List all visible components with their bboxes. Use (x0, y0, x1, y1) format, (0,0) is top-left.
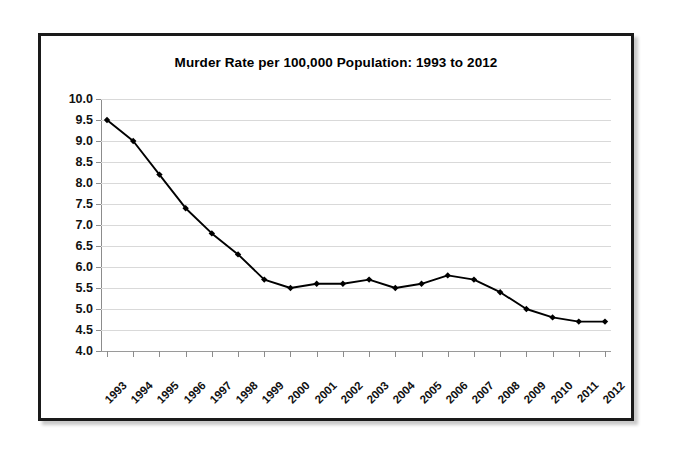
x-axis-tick (500, 351, 501, 357)
plot-area: 10.09.59.08.58.07.57.06.56.05.55.04.54.0… (101, 99, 611, 351)
x-axis-label: 2004 (391, 379, 418, 406)
data-point-marker (313, 281, 319, 287)
x-axis-label: 1999 (260, 379, 287, 406)
x-axis-label: 2000 (286, 379, 313, 406)
x-axis-label: 1997 (207, 379, 234, 406)
x-axis-label: 1993 (102, 379, 129, 406)
x-axis-label: 2011 (574, 379, 600, 405)
y-axis-label: 8.0 (76, 176, 93, 190)
x-axis-tick (264, 351, 265, 357)
x-axis-label: 1995 (155, 379, 182, 406)
x-axis-tick (553, 351, 554, 357)
x-axis-label: 2001 (312, 379, 339, 406)
x-axis-tick (290, 351, 291, 357)
x-axis-label: 2010 (548, 379, 575, 406)
x-axis-tick (579, 351, 580, 357)
data-point-marker (576, 318, 582, 324)
y-axis-label: 5.0 (76, 302, 93, 316)
x-axis-tick (422, 351, 423, 357)
series-polyline (107, 120, 605, 322)
x-axis-tick (133, 351, 134, 357)
data-point-marker (340, 281, 346, 287)
data-point-marker (445, 272, 451, 278)
y-axis-label: 7.5 (76, 197, 93, 211)
x-axis-label: 2003 (364, 379, 391, 406)
x-axis-label: 2012 (600, 379, 627, 406)
y-axis-label: 8.5 (76, 155, 93, 169)
x-axis-label: 1994 (129, 379, 156, 406)
y-axis-label: 4.5 (76, 323, 93, 337)
x-axis-tick (395, 351, 396, 357)
y-axis-label: 5.5 (76, 281, 93, 295)
y-axis-label: 6.0 (76, 260, 93, 274)
x-axis-label: 1996 (181, 379, 208, 406)
y-axis-label: 9.0 (76, 134, 93, 148)
chart-frame: Murder Rate per 100,000 Population: 1993… (38, 33, 634, 421)
chart-title: Murder Rate per 100,000 Population: 1993… (41, 55, 631, 70)
x-axis-tick (474, 351, 475, 357)
x-axis-label: 2009 (522, 379, 549, 406)
x-axis-tick (159, 351, 160, 357)
y-axis-label: 4.0 (76, 344, 93, 358)
x-axis-tick (448, 351, 449, 357)
x-axis-tick (605, 351, 606, 357)
y-axis-tick (96, 351, 101, 352)
x-axis-label: 2008 (496, 379, 523, 406)
x-axis-tick (317, 351, 318, 357)
y-axis-label: 7.0 (76, 218, 93, 232)
x-axis-tick (212, 351, 213, 357)
y-axis-label: 6.5 (76, 239, 93, 253)
x-axis-label: 2005 (417, 379, 444, 406)
gridline (101, 351, 611, 352)
data-point-marker (287, 285, 293, 291)
x-axis-tick (107, 351, 108, 357)
x-axis-tick (526, 351, 527, 357)
data-point-marker (549, 314, 555, 320)
x-axis-label: 1998 (233, 379, 260, 406)
data-series-line (101, 99, 611, 351)
data-point-marker (471, 276, 477, 282)
data-point-marker (602, 318, 608, 324)
y-axis-label: 10.0 (69, 92, 93, 106)
x-axis-tick (369, 351, 370, 357)
y-axis-label: 9.5 (76, 113, 93, 127)
x-axis-tick (186, 351, 187, 357)
x-axis-label: 2002 (338, 379, 365, 406)
data-point-marker (392, 285, 398, 291)
x-axis-label: 2006 (443, 379, 470, 406)
data-point-marker (418, 281, 424, 287)
x-axis-label: 2007 (469, 379, 496, 406)
data-point-marker (366, 276, 372, 282)
x-axis-tick (238, 351, 239, 357)
x-axis-tick (343, 351, 344, 357)
